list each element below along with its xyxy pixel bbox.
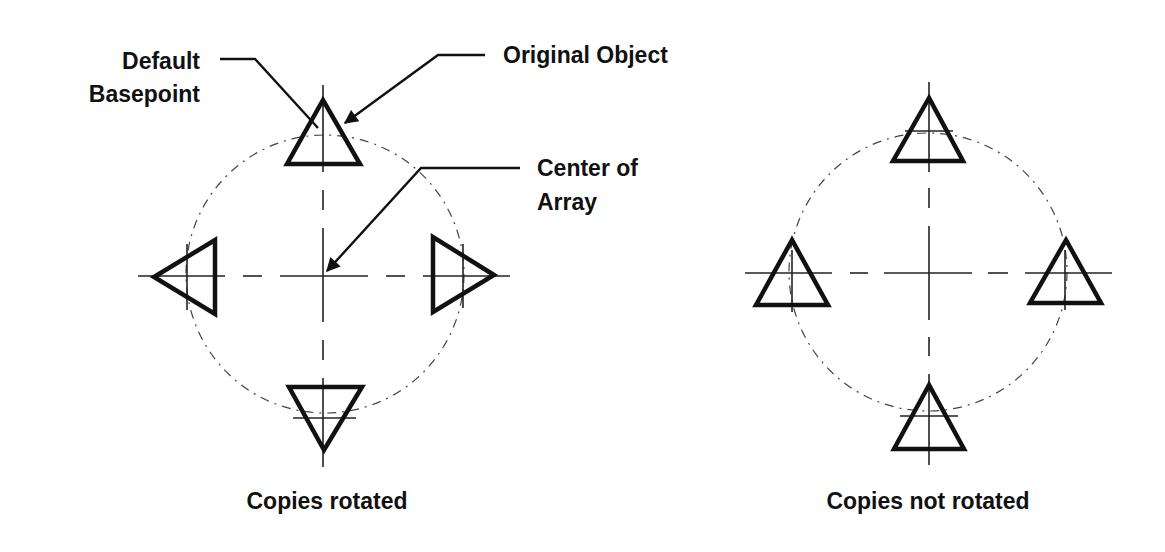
array-path-circle <box>186 135 464 413</box>
center-of-array-arrow <box>327 168 520 271</box>
rotated-copy-left-triangle <box>154 240 215 314</box>
array-path-circle <box>789 133 1067 411</box>
default-basepoint-label-line1: Default <box>122 48 200 74</box>
center-of-array-label-line1: Center of <box>537 155 638 181</box>
original-object-triangle <box>893 98 963 161</box>
caption-copies-rotated: Copies rotated <box>246 488 407 514</box>
original-object-label: Original Object <box>503 42 668 68</box>
center-of-array-label-line2: Array <box>537 189 597 215</box>
default-basepoint-label-line2: Basepoint <box>89 81 201 107</box>
left-centerlines <box>138 85 510 467</box>
right-centerlines <box>745 82 1112 465</box>
right-panel-copies-not-rotated: Copies not rotated <box>745 82 1112 514</box>
default-basepoint-leader <box>220 59 318 128</box>
caption-copies-not-rotated: Copies not rotated <box>826 488 1029 514</box>
original-object-arrow <box>345 55 485 123</box>
left-panel-copies-rotated: Default Basepoint Original Object Center… <box>89 42 668 514</box>
polar-array-diagram: Default Basepoint Original Object Center… <box>0 0 1165 552</box>
